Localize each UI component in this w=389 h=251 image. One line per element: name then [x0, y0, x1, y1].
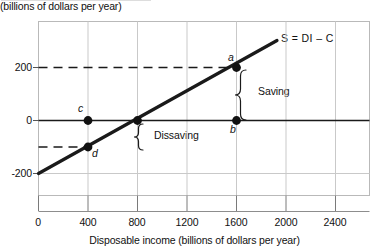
chart-plot-svg [0, 0, 389, 251]
y-axis-tick-marks [33, 68, 39, 174]
x-axis-tick-marks [39, 196, 370, 212]
vertical-gridlines [88, 22, 336, 196]
data-point-c [84, 116, 93, 125]
data-point-d [84, 143, 93, 152]
data-point-a [232, 63, 241, 72]
dissaving-bracket [134, 124, 143, 150]
data-point-breakeven [133, 116, 142, 125]
data-point-b [232, 116, 241, 125]
savings-function-line [39, 41, 278, 174]
savings-function-chart: (billions of dollars per year) 200 0 -20… [0, 0, 389, 251]
